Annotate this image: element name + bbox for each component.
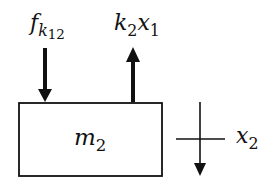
force-label-k2x1: k2x1: [114, 10, 160, 40]
displacement-arrow-icon: [176, 102, 225, 176]
displacement-label: x2: [236, 123, 259, 153]
force-label-f-k12: fk12: [30, 10, 65, 42]
mass-label: m2: [74, 124, 106, 155]
force-arrow-up-icon: [126, 47, 140, 102]
force-arrow-down-icon: [38, 48, 52, 102]
